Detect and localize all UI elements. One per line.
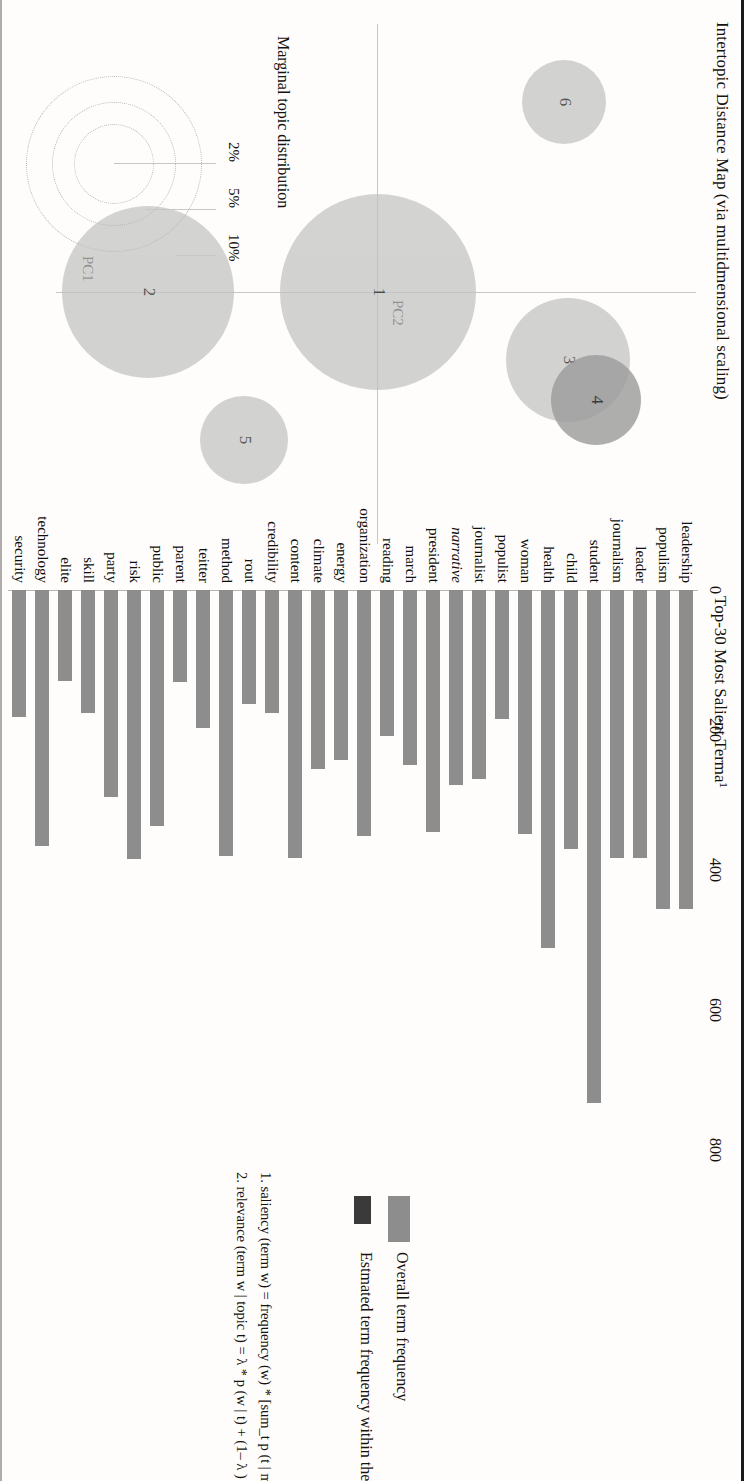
bar-overall-frequency[interactable] [403, 590, 417, 765]
barchart-row[interactable]: teitter [196, 590, 210, 1150]
marginal-legend-title: Marginal topic distribution [274, 36, 292, 208]
term-label[interactable]: child [563, 553, 580, 583]
barchart-row[interactable]: content [288, 590, 302, 1150]
bar-overall-frequency[interactable] [334, 590, 348, 760]
tick-2pct [114, 163, 216, 164]
term-label[interactable]: energy [333, 542, 350, 583]
barchart-row[interactable]: risk [127, 590, 141, 1150]
term-label[interactable]: narrative [448, 527, 465, 583]
barchart-row[interactable]: populist [495, 590, 509, 1150]
term-label[interactable]: party [103, 552, 120, 583]
term-label[interactable]: student [586, 540, 603, 583]
term-label[interactable]: leader [632, 546, 649, 583]
term-label[interactable]: journalist [471, 526, 488, 583]
bar-overall-frequency[interactable] [564, 590, 578, 849]
topic-bubble-6[interactable]: 6 [522, 60, 606, 144]
barchart-row[interactable]: leader [633, 590, 647, 1150]
term-label[interactable]: climate [310, 539, 327, 583]
bar-overall-frequency[interactable] [265, 590, 279, 713]
term-label[interactable]: rout [241, 559, 258, 583]
term-label[interactable]: teitter [195, 548, 212, 583]
barchart-row[interactable]: skill [81, 590, 95, 1150]
term-label[interactable]: technology [34, 516, 51, 583]
term-label[interactable]: populism [655, 527, 672, 583]
term-label[interactable]: populist [494, 535, 511, 583]
term-label[interactable]: credibility [264, 521, 281, 583]
barchart-row[interactable]: populism [656, 590, 670, 1150]
barchart-row[interactable]: credibility [265, 590, 279, 1150]
barchart-row[interactable]: elite [58, 590, 72, 1150]
bar-overall-frequency[interactable] [380, 590, 394, 736]
bar-overall-frequency[interactable] [449, 590, 463, 785]
bar-overall-frequency[interactable] [633, 590, 647, 858]
marginal-topic-distribution-legend: Marginal topic distribution 2% 5% 10% [42, 36, 292, 276]
bar-overall-frequency[interactable] [426, 590, 440, 832]
term-label[interactable]: woman [517, 539, 534, 583]
bar-overall-frequency[interactable] [219, 590, 233, 856]
barchart-row[interactable]: child [564, 590, 578, 1150]
bar-overall-frequency[interactable] [288, 590, 302, 858]
term-label[interactable]: march [402, 546, 419, 583]
term-label[interactable]: parent [172, 546, 189, 583]
bar-overall-frequency[interactable] [541, 590, 555, 948]
barchart-row[interactable]: health [541, 590, 555, 1150]
barchart-row[interactable]: woman [518, 590, 532, 1150]
bar-overall-frequency[interactable] [587, 590, 601, 1103]
bar-overall-frequency[interactable] [357, 590, 371, 836]
bar-overall-frequency[interactable] [196, 590, 210, 728]
topic-bubble-5[interactable]: 5 [200, 396, 288, 484]
term-label[interactable]: health [540, 546, 557, 583]
term-label[interactable]: security [11, 536, 28, 583]
bar-overall-frequency[interactable] [679, 590, 693, 909]
bar-overall-frequency[interactable] [81, 590, 95, 713]
barchart-row[interactable]: leadership [679, 590, 693, 1150]
barchart-row[interactable]: parent [173, 590, 187, 1150]
barchart-row[interactable]: public [150, 590, 164, 1150]
barchart-row[interactable]: party [104, 590, 118, 1150]
term-label[interactable]: skill [80, 557, 97, 583]
barchart-row[interactable]: reading [380, 590, 394, 1150]
bar-overall-frequency[interactable] [495, 590, 509, 719]
barchart-row[interactable]: security [12, 590, 26, 1150]
barchart-row[interactable]: rout [242, 590, 256, 1150]
barchart-row[interactable]: narrative [449, 590, 463, 1150]
topic-bubble-label: 1 [369, 288, 389, 297]
bar-overall-frequency[interactable] [472, 590, 486, 779]
bar-overall-frequency[interactable] [104, 590, 118, 797]
bar-overall-frequency[interactable] [311, 590, 325, 769]
topic-bubble-1[interactable]: 1 [280, 194, 476, 390]
term-label[interactable]: public [149, 546, 166, 584]
term-label[interactable]: elite [57, 557, 74, 583]
barchart-row[interactable]: march [403, 590, 417, 1150]
bar-overall-frequency[interactable] [610, 590, 624, 858]
bar-overall-frequency[interactable] [150, 590, 164, 826]
bar-overall-frequency[interactable] [58, 590, 72, 681]
term-label[interactable]: organization [356, 508, 373, 583]
tick-5pct [146, 209, 216, 210]
bar-overall-frequency[interactable] [12, 590, 26, 717]
bar-overall-frequency[interactable] [242, 590, 256, 704]
term-label[interactable]: content [287, 539, 304, 583]
term-label[interactable]: reading [379, 538, 396, 583]
barchart-row[interactable]: president [426, 590, 440, 1150]
barchart-row[interactable]: technology [35, 590, 49, 1150]
barchart-title: Top-30 Most Salient Terma¹ [710, 596, 730, 788]
term-label[interactable]: president [425, 528, 442, 583]
barchart-row[interactable]: method [219, 590, 233, 1150]
barchart-row[interactable]: energy [334, 590, 348, 1150]
barchart-row[interactable]: organization [357, 590, 371, 1150]
barchart-row[interactable]: journalist [472, 590, 486, 1150]
bar-overall-frequency[interactable] [173, 590, 187, 682]
term-label[interactable]: risk [126, 561, 143, 584]
bar-overall-frequency[interactable] [35, 590, 49, 846]
term-label[interactable]: journalism [609, 519, 626, 583]
bar-overall-frequency[interactable] [127, 590, 141, 859]
barchart-row[interactable]: climate [311, 590, 325, 1150]
bar-overall-frequency[interactable] [656, 590, 670, 909]
barchart-row[interactable]: journalism [610, 590, 624, 1150]
topic-bubble-4[interactable]: 4 [551, 355, 641, 445]
term-label[interactable]: method [218, 538, 235, 583]
barchart-row[interactable]: student [587, 590, 601, 1150]
bar-overall-frequency[interactable] [518, 590, 532, 834]
term-label[interactable]: leadership [678, 521, 695, 583]
